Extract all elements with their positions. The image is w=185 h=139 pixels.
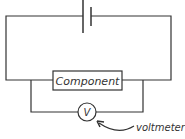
annotation-arrow — [99, 123, 134, 130]
voltmeter-symbol: V — [84, 107, 92, 118]
circuit-diagram: Component V voltmeter — [0, 0, 185, 139]
component-label: Component — [56, 75, 121, 88]
voltmeter-annotation: voltmeter — [136, 122, 185, 133]
